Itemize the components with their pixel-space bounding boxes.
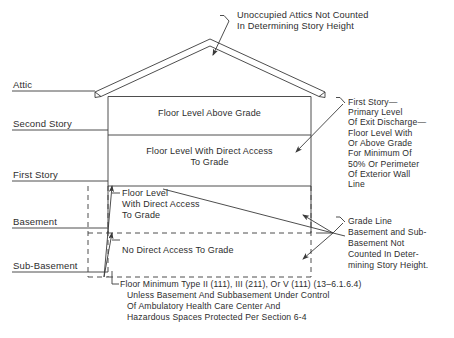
top-note-line1: Unoccupied Attics Not Counted <box>237 10 369 21</box>
interior-label-no-direct-access: No Direct Access To Grade <box>122 245 234 256</box>
footnote-line3: Of Ambulatory Health Care Center And <box>127 301 280 312</box>
first-story-leader <box>296 98 345 153</box>
callout-grade-line-line2: Basement and Sub- <box>348 227 427 237</box>
level-label-attic: Attic <box>13 80 32 91</box>
callout-first-story-line2: Primary Level <box>348 107 402 117</box>
callout-first-story-line6: For Minimum Of <box>348 148 412 158</box>
callout-grade-line-line1: Grade Line <box>348 216 392 226</box>
level-label-sub-basement: Sub-Basement <box>13 261 78 272</box>
diagram-canvas: Unoccupied Attics Not Counted In Determi… <box>0 0 454 338</box>
callout-first-story-line4: Floor Level With <box>348 128 413 138</box>
interior-label-direct-access-line1: Floor Level With Direct Access <box>108 146 311 157</box>
interior-label-direct-access-line2: To Grade <box>108 157 311 168</box>
roof-outline <box>95 39 325 98</box>
callout-first-story-line5: Or Above Grade <box>348 138 412 148</box>
callout-grade-line-line5: mining Story Height. <box>348 260 428 270</box>
level-label-basement: Basement <box>13 217 57 228</box>
footnote-line1: Floor Minimum Type II (111), III (211), … <box>120 279 362 290</box>
callout-first-story-line1: First Story— <box>348 97 398 107</box>
interior-label-first-floor-line2: With Direct Access <box>122 199 200 210</box>
interior-label-first-floor-line3: To Grade <box>122 210 160 221</box>
footnote-line2: Unless Basement And Subbasement Under Co… <box>127 290 330 301</box>
top-note-leader <box>213 16 229 56</box>
top-note-line2: In Determining Story Height <box>237 21 354 32</box>
callout-grade-line-line3: Basement Not <box>348 238 404 248</box>
first-floor-interior-leader <box>163 189 333 233</box>
callout-grade-line-line4: Counted In Deter- <box>348 249 419 259</box>
callout-first-story-line3: Of Exit Discharge— <box>348 117 426 127</box>
interior-label-above-grade: Floor Level Above Grade <box>108 108 311 119</box>
level-label-first-story: First Story <box>13 170 58 181</box>
level-label-second-story: Second Story <box>13 119 72 130</box>
footnote-line4: Hazardous Spaces Protected Per Section 6… <box>127 312 307 323</box>
footnote-leader <box>112 271 119 284</box>
callout-first-story-line7: 50% Or Perimeter <box>348 159 419 169</box>
callout-first-story-line9: Line <box>348 179 365 189</box>
interior-label-first-floor-line1: Floor Level <box>122 188 168 199</box>
callout-first-story-line8: Of Exterior Wall <box>348 169 410 179</box>
grade-line-leaders <box>303 215 345 259</box>
